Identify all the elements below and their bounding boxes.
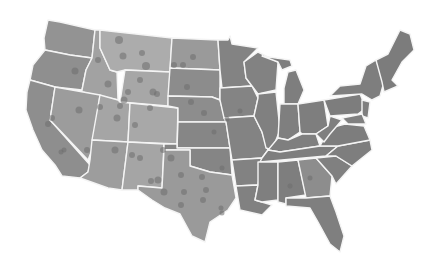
state-montana [100, 30, 172, 72]
state-pennsylvania [324, 94, 366, 116]
us-map [0, 0, 435, 264]
state-florida [286, 196, 344, 252]
state-new-england [376, 30, 414, 92]
state-north-dakota [170, 38, 220, 70]
state-south-dakota [168, 68, 220, 100]
state-new-york [330, 60, 384, 100]
state-wyoming [120, 70, 170, 106]
state-kansas [177, 122, 230, 148]
state-mississippi [255, 162, 278, 202]
state-indiana [278, 104, 300, 140]
